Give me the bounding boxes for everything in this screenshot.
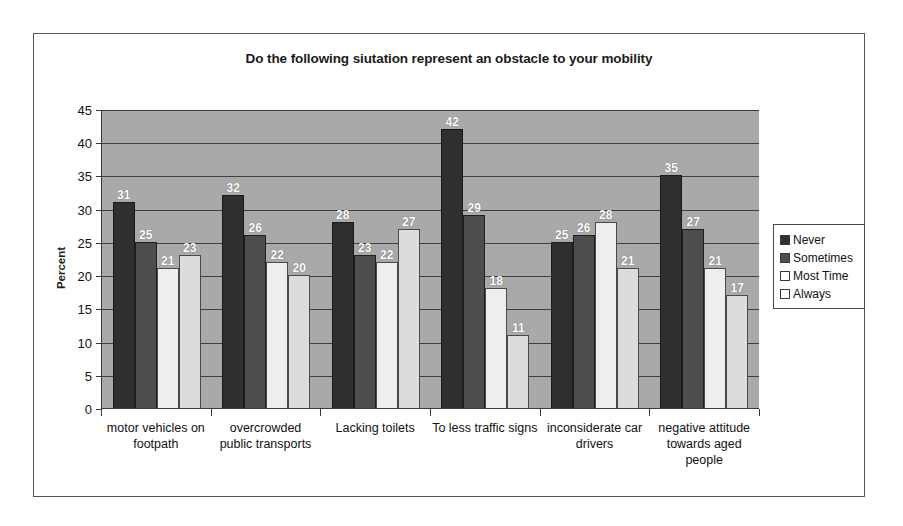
bar[interactable]: 21 xyxy=(617,268,639,408)
bar-value-label: 21 xyxy=(161,254,174,268)
legend-item[interactable]: Never xyxy=(780,233,857,247)
bar[interactable]: 22 xyxy=(376,262,398,408)
bar-value-label: 42 xyxy=(446,115,459,129)
bar-value-label: 21 xyxy=(621,254,634,268)
legend-swatch-icon xyxy=(780,235,790,245)
x-axis-category-labels: motor vehicles on footpathovercrowded pu… xyxy=(101,420,759,468)
bar[interactable]: 23 xyxy=(179,255,201,408)
bar[interactable]: 35 xyxy=(660,175,682,408)
bar[interactable]: 21 xyxy=(704,268,726,408)
bar[interactable]: 20 xyxy=(288,275,310,408)
bar[interactable]: 25 xyxy=(135,242,157,408)
bar-group: 35272117 xyxy=(650,110,760,408)
bar-value-label: 31 xyxy=(117,188,130,202)
plot-wrap: 454035302520151050 312521233226222028232… xyxy=(101,110,759,409)
bar-value-label: 20 xyxy=(293,261,306,275)
bar[interactable]: 22 xyxy=(266,262,288,408)
x-axis-tick xyxy=(101,409,102,416)
bar-value-label: 23 xyxy=(358,241,371,255)
bar[interactable]: 11 xyxy=(507,335,529,408)
x-axis-category-label: negative attitude towards aged people xyxy=(649,420,759,468)
y-axis-tick-label: 0 xyxy=(85,402,92,417)
bar[interactable]: 32 xyxy=(222,195,244,408)
bar-value-label: 26 xyxy=(249,221,262,235)
x-axis-category-label: To less traffic signs xyxy=(430,420,540,468)
bar-value-label: 17 xyxy=(731,281,744,295)
x-axis-ticks xyxy=(101,409,759,416)
bar-value-label: 25 xyxy=(139,228,152,242)
bar-value-label: 29 xyxy=(468,201,481,215)
legend: NeverSometimesMost TimeAlways xyxy=(773,224,865,309)
bar-value-label: 35 xyxy=(665,161,678,175)
bar[interactable]: 26 xyxy=(573,235,595,408)
bar-value-label: 22 xyxy=(271,248,284,262)
x-axis-tick xyxy=(320,409,321,416)
chart-frame: Do the following siutation represent an … xyxy=(33,33,865,497)
bar-value-label: 23 xyxy=(183,241,196,255)
legend-item[interactable]: Sometimes xyxy=(780,251,857,265)
bar-group: 28232227 xyxy=(321,110,431,408)
bar-value-label: 22 xyxy=(380,248,393,262)
bar[interactable]: 28 xyxy=(332,222,354,408)
x-axis-tick xyxy=(649,409,650,416)
legend-label: Most Time xyxy=(793,269,848,283)
bar[interactable]: 23 xyxy=(354,255,376,408)
bar-value-label: 27 xyxy=(687,215,700,229)
bar-value-label: 18 xyxy=(490,274,503,288)
legend-item[interactable]: Always xyxy=(780,287,857,301)
legend-label: Always xyxy=(793,287,831,301)
x-axis-tick xyxy=(759,409,760,416)
bar-group: 42291811 xyxy=(431,110,541,408)
bars-layer: 3125212332262220282322274229181125262821… xyxy=(102,110,759,408)
bar-value-label: 28 xyxy=(599,208,612,222)
bar[interactable]: 31 xyxy=(113,202,135,408)
plot-area: 454035302520151050 312521233226222028232… xyxy=(101,110,759,409)
x-axis-category-label: overcrowded public transports xyxy=(211,420,321,468)
x-axis-tick xyxy=(540,409,541,416)
x-axis-category-label: motor vehicles on footpath xyxy=(101,420,211,468)
bar-group: 32262220 xyxy=(212,110,322,408)
bar-value-label: 27 xyxy=(402,215,415,229)
legend-swatch-icon xyxy=(780,289,790,299)
x-axis-tick xyxy=(211,409,212,416)
bar[interactable]: 21 xyxy=(157,268,179,408)
y-axis-tick-label: 15 xyxy=(78,302,92,317)
y-axis-tick-label: 20 xyxy=(78,269,92,284)
y-axis-tick-label: 30 xyxy=(78,202,92,217)
y-axis-tick-label: 40 xyxy=(78,136,92,151)
x-axis-category-label: Lacking toilets xyxy=(320,420,430,468)
bar-value-label: 21 xyxy=(709,254,722,268)
bar[interactable]: 27 xyxy=(398,229,420,408)
bar[interactable]: 26 xyxy=(244,235,266,408)
bar-group: 25262821 xyxy=(540,110,650,408)
y-axis-tick-label: 5 xyxy=(85,368,92,383)
bar-value-label: 32 xyxy=(227,181,240,195)
bar-value-label: 28 xyxy=(336,208,349,222)
bar[interactable]: 28 xyxy=(595,222,617,408)
y-axis-tick-label: 10 xyxy=(78,335,92,350)
bar[interactable]: 18 xyxy=(485,288,507,408)
legend-swatch-icon xyxy=(780,271,790,281)
legend-label: Sometimes xyxy=(793,251,853,265)
bar-group: 31252123 xyxy=(102,110,212,408)
bar-value-label: 25 xyxy=(555,228,568,242)
bar-value-label: 11 xyxy=(512,321,525,335)
bar[interactable]: 17 xyxy=(726,295,748,408)
legend-label: Never xyxy=(793,233,825,247)
bar[interactable]: 27 xyxy=(682,229,704,408)
bar[interactable]: 25 xyxy=(551,242,573,408)
bar[interactable]: 29 xyxy=(463,215,485,408)
x-axis-tick xyxy=(430,409,431,416)
bar[interactable]: 42 xyxy=(441,129,463,408)
legend-swatch-icon xyxy=(780,253,790,263)
y-axis-tick-label: 25 xyxy=(78,235,92,250)
y-axis-tick-label: 45 xyxy=(78,103,92,118)
y-axis-title: Percent xyxy=(55,223,67,313)
x-axis-category-label: inconsiderate car drivers xyxy=(540,420,650,468)
chart-title: Do the following siutation represent an … xyxy=(34,51,864,66)
legend-item[interactable]: Most Time xyxy=(780,269,857,283)
y-axis-tick-label: 35 xyxy=(78,169,92,184)
bar-value-label: 26 xyxy=(577,221,590,235)
